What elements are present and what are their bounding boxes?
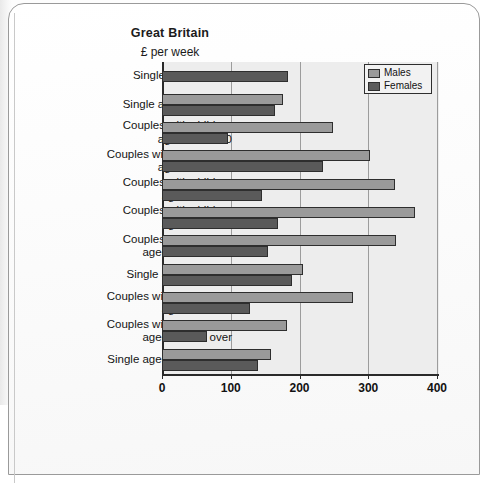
bar-females [162,303,250,314]
bar-males [162,264,303,275]
x-axis-line [162,374,439,376]
x-tick-label-0: 0 [159,381,166,395]
bar-males [162,349,271,360]
bar-males [162,150,370,161]
x-tick-0 [162,374,163,379]
chart-legend: Males Females [364,64,432,94]
bar-females [162,275,292,286]
bar-group: Couples without childrenaged 65 and over [0,317,464,345]
legend-item-males: Males [368,67,428,79]
bar-females [162,105,275,116]
bar-rows: Single with childrenSingle aged under 40… [0,62,464,374]
bar-group: Couples with childrenaged under 30 [0,119,464,147]
x-tick-label-100: 100 [221,381,241,395]
x-tick-300 [368,374,369,379]
legend-label-males: Males [384,68,411,78]
x-tick-label-200: 200 [289,381,309,395]
chart-subtitle: £ per week [80,45,260,59]
legend-swatch-females-icon [368,82,380,91]
bar-females [162,331,207,342]
x-tick-100 [231,374,232,379]
bar-group: Single aged under 40 [0,90,464,118]
bar-females [162,218,278,229]
x-tick-label-400: 400 [427,381,447,395]
bar-group: Single aged 65 and over [0,346,464,374]
x-tick-200 [300,374,301,379]
bar-group: Couples without childrenaged under 40 [0,147,464,175]
bar-males [162,94,283,105]
bar-males [162,207,415,218]
bar-group: Couples with childrenaged 40 to 49 [0,204,464,232]
bar-group: Couples with childrenaged 30 to 39 [0,175,464,203]
bar-group: Couples with childrenaged 50 and over [0,232,464,260]
legend-item-females: Females [368,80,428,92]
x-tick-label-300: 300 [358,381,378,395]
legend-swatch-males-icon [368,69,380,78]
bar-males [162,292,353,303]
bar-group: Couples without childrenaged 40 to 64 [0,289,464,317]
bar-females [162,71,288,82]
bar-females [162,360,258,371]
x-tick-400 [437,374,438,379]
bar-males [162,179,395,190]
bar-females [162,246,268,257]
bar-females [162,190,262,201]
legend-label-females: Females [384,81,422,91]
chart-title: Great Britain [80,26,260,40]
bar-males [162,320,287,331]
bar-females [162,133,228,144]
bar-males [162,235,396,246]
bar-group: Single aged 40 to 64 [0,261,464,289]
bar-males [162,122,333,133]
bar-females [162,161,323,172]
